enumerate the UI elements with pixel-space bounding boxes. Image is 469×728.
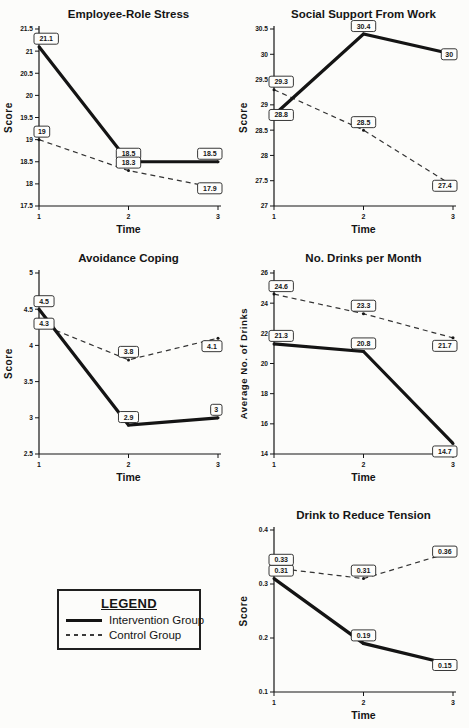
y-tick-label: 29	[261, 101, 269, 108]
legend-item-label: Control Group	[109, 629, 181, 641]
x-tick-labels: 123	[272, 454, 455, 468]
solid-line	[274, 579, 453, 665]
y-tick-label: 4.5	[24, 306, 33, 313]
chart-drink-to-reduce-tension: Drink to Reduce Tension0.10.20.30.4123Sc…	[236, 490, 469, 728]
series-control-group	[273, 293, 455, 340]
x-tick-labels: 123	[37, 206, 220, 220]
chart-title: Drink to Reduce Tension	[296, 509, 431, 521]
x-tick-labels: 123	[272, 206, 455, 220]
data-point	[362, 312, 365, 315]
point-label-text: 30	[445, 51, 453, 58]
y-tick-label: 21.5	[20, 25, 33, 32]
y-tick-label: 3.5	[24, 378, 33, 385]
point-label-text: 14.7	[438, 448, 452, 455]
y-tick-label: 20	[261, 360, 269, 367]
point-label-text: 20.8	[357, 340, 371, 347]
data-point	[217, 337, 220, 340]
point-label-text: 0.19	[357, 632, 371, 639]
legend-box: LEGEND Intervention Group Control Group	[57, 589, 201, 650]
data-point	[127, 358, 130, 361]
point-label-text: 18.3	[122, 159, 136, 166]
y-tick-label: 24	[261, 300, 269, 307]
series-intervention-group	[38, 308, 220, 427]
x-tick-labels: 123	[37, 454, 220, 468]
x-tick-label: 3	[216, 213, 220, 220]
data-point	[38, 138, 41, 141]
x-tick-label: 1	[37, 461, 41, 468]
chart-employee-role-stress: Employee-Role Stress17.51818.51919.52020…	[1, 2, 234, 244]
chart-title: Employee-Role Stress	[68, 8, 189, 20]
y-tick-labels: 0.10.20.30.4	[259, 526, 274, 695]
x-tick-labels: 123	[272, 692, 455, 706]
chart-title: Social Support From Work	[291, 8, 436, 20]
point-label-text: 21.7	[438, 342, 452, 349]
chart-svg-employee-role-stress: Employee-Role Stress17.51818.51919.52020…	[1, 2, 234, 244]
point-label-text: 21.3	[274, 332, 288, 339]
axes	[274, 270, 456, 454]
point-label-text: 28.5	[357, 119, 371, 126]
x-tick-label: 1	[272, 213, 276, 220]
x-tick-label: 2	[362, 461, 366, 468]
y-tick-label: 16	[261, 420, 269, 427]
chart-social-support-from-work: Social Support From Work2727.52828.52929…	[236, 2, 469, 244]
data-point	[273, 293, 276, 296]
y-tick-label: 0.4	[259, 526, 268, 533]
y-tick-label: 28	[261, 152, 269, 159]
data-point	[38, 308, 41, 311]
y-tick-labels: 17.51818.51919.52020.52121.5	[20, 25, 39, 209]
point-label-text: 23.3	[357, 302, 371, 309]
y-tick-label: 20	[26, 92, 34, 99]
x-tick-label: 3	[451, 699, 455, 706]
dashed-line	[274, 90, 453, 186]
chart-svg-no-drinks-per-month: No. Drinks per Month14161820222426123Ave…	[236, 246, 469, 492]
series-intervention-group	[38, 45, 220, 163]
y-tick-label: 22	[261, 330, 269, 337]
point-label-text: 17.9	[203, 185, 217, 192]
y-tick-label: 27.5	[255, 177, 268, 184]
point-label-text: 3	[214, 406, 218, 413]
x-tick-label: 1	[272, 699, 276, 706]
y-tick-label: 2.5	[24, 450, 33, 457]
y-tick-label: 18	[261, 390, 269, 397]
point-label-text: 18.5	[122, 150, 136, 157]
data-point	[127, 424, 130, 427]
y-axis-label: Score	[3, 348, 14, 379]
x-axis-label: Time	[116, 223, 140, 235]
data-point	[273, 342, 276, 345]
series-intervention-group	[273, 342, 455, 445]
point-labels: 0.310.190.150.330.310.36	[269, 546, 457, 670]
x-tick-label: 2	[362, 699, 366, 706]
axes	[274, 527, 456, 692]
y-tick-label: 30.5	[255, 25, 268, 32]
data-point	[452, 336, 455, 339]
y-tick-labels: 14161820222426	[261, 269, 274, 457]
y-tick-label: 3	[29, 414, 33, 421]
y-tick-label: 28.5	[255, 127, 268, 134]
x-tick-label: 2	[127, 213, 131, 220]
x-axis-label: Time	[351, 223, 375, 235]
y-tick-label: 18.5	[20, 158, 33, 165]
solid-line-sample	[66, 619, 102, 622]
point-label-text: 4.3	[39, 320, 49, 327]
y-tick-label: 29.5	[255, 76, 268, 83]
y-tick-label: 0.1	[259, 688, 268, 695]
y-tick-label: 21	[26, 48, 34, 55]
point-labels: 21.320.814.724.623.321.7	[269, 281, 457, 457]
point-label-text: 29.3	[274, 78, 288, 85]
y-tick-label: 0.2	[259, 634, 268, 641]
x-axis-label: Time	[351, 471, 375, 483]
x-axis-label: Time	[116, 471, 140, 483]
y-tick-label: 14	[261, 450, 269, 457]
y-axis-label: Score	[3, 102, 14, 133]
x-tick-label: 1	[272, 461, 276, 468]
point-label-text: 0.36	[438, 548, 452, 555]
chart-title: Avoidance Coping	[78, 252, 179, 264]
x-tick-label: 2	[127, 461, 131, 468]
x-tick-label: 3	[216, 461, 220, 468]
point-label-text: 0.31	[274, 567, 288, 574]
y-tick-label: 20.5	[20, 70, 33, 77]
figure-page: Employee-Role Stress17.51818.51919.52020…	[0, 0, 469, 728]
point-label-text: 28.8	[274, 111, 288, 118]
solid-line	[274, 34, 453, 115]
data-point	[362, 129, 365, 132]
